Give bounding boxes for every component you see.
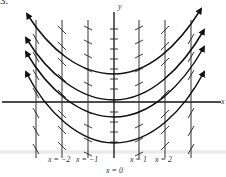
- isocline-label-x2: x = 2: [155, 155, 172, 164]
- direction-field-figure: 3.: [0, 0, 226, 177]
- isocline-label-x0: x = 0: [106, 166, 123, 175]
- x-axis-label: x: [221, 97, 225, 106]
- y-axis-label: y: [118, 2, 122, 11]
- isocline-label-xm1: x = −1: [76, 155, 98, 164]
- isocline-label-x1: x = 1: [130, 155, 147, 164]
- plot-svg: [0, 0, 226, 177]
- isocline-label-xm2: x = −2: [48, 155, 70, 164]
